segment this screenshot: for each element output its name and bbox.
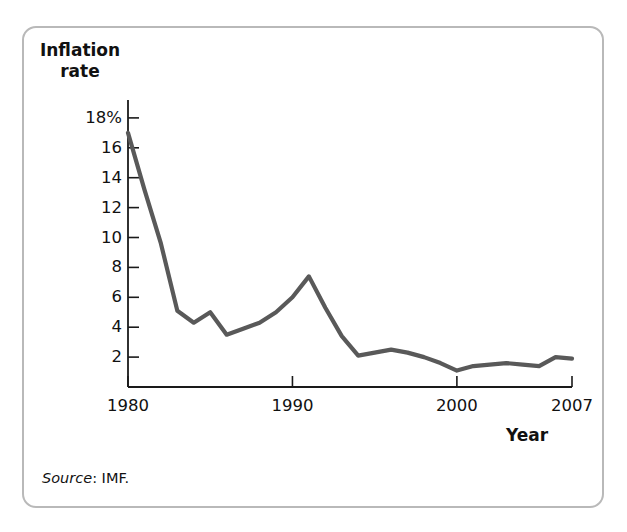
y-tick-label: 18% <box>66 108 122 127</box>
inflation-line-series <box>128 133 572 371</box>
figure-page: Inflationrate Year 24681012141618% 19801… <box>0 0 627 532</box>
x-tick-label: 1980 <box>96 396 160 415</box>
y-tick-label: 12 <box>66 198 122 217</box>
x-axis-title: Year <box>506 425 548 446</box>
x-tick-label: 2007 <box>540 396 604 415</box>
y-tick-label: 8 <box>66 257 122 276</box>
y-axis-title-line1: Inflation <box>40 40 120 60</box>
y-tick-label: 2 <box>66 347 122 366</box>
x-tick-label: 1990 <box>260 396 324 415</box>
y-tick-label: 4 <box>66 317 122 336</box>
y-tick-label: 16 <box>66 138 122 157</box>
x-tick-label: 2000 <box>425 396 489 415</box>
source-label: Source <box>42 470 92 486</box>
source-value: : IMF. <box>92 470 129 486</box>
y-tick-label: 14 <box>66 168 122 187</box>
y-tick-label: 10 <box>66 228 122 247</box>
source-note: Source: IMF. <box>42 470 129 486</box>
y-tick-label: 6 <box>66 287 122 306</box>
y-axis-title-line2: rate <box>60 61 100 81</box>
y-axis-title: Inflationrate <box>36 40 124 82</box>
